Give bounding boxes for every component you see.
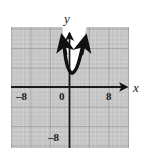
coordinate-plane-svg: –8 0 8 –8 y x	[0, 0, 151, 157]
y-tick-label-negative-8: –8	[47, 131, 60, 143]
x-tick-label-negative-8: –8	[15, 90, 28, 102]
y-axis-label: y	[62, 11, 70, 26]
origin-label: 0	[59, 90, 65, 102]
x-axis-label: x	[132, 80, 139, 95]
graph-figure: –8 0 8 –8 y x	[0, 0, 151, 157]
x-tick-label-positive-8: 8	[106, 90, 112, 102]
